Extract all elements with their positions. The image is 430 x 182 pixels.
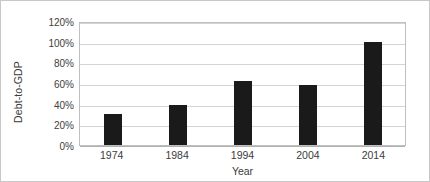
bar-chart: Debt-to-GDP 0%20%40%60%80%100%120% 19741… bbox=[0, 0, 430, 182]
y-axis-tick-20: 20% bbox=[54, 120, 74, 131]
x-axis-tick-1984: 1984 bbox=[144, 149, 209, 164]
y-axis-title: Debt-to-GDP bbox=[7, 1, 29, 182]
x-axis-tick-2014: 2014 bbox=[341, 149, 406, 164]
bar-slot-2004 bbox=[275, 23, 340, 145]
x-axis-tick-2004: 2004 bbox=[275, 149, 340, 164]
plot-area bbox=[79, 22, 406, 146]
y-axis-tick-100: 100% bbox=[48, 37, 74, 48]
bar-2004 bbox=[299, 85, 317, 145]
y-axis-tick-0: 0% bbox=[60, 141, 74, 152]
gridline-0 bbox=[80, 146, 405, 147]
x-axis-tick-1974: 1974 bbox=[79, 149, 144, 164]
y-axis-tick-40: 40% bbox=[54, 99, 74, 110]
bar-slot-1994 bbox=[210, 23, 275, 145]
bar-slot-1974 bbox=[80, 23, 145, 145]
y-axis-tick-120: 120% bbox=[48, 17, 74, 28]
bar-2014 bbox=[364, 42, 382, 145]
bar-1994 bbox=[234, 81, 252, 145]
x-axis-tick-1994: 1994 bbox=[210, 149, 275, 164]
bar-slot-2014 bbox=[340, 23, 405, 145]
y-axis-tick-60: 60% bbox=[54, 79, 74, 90]
bar-slot-1984 bbox=[145, 23, 210, 145]
y-axis-title-label: Debt-to-GDP bbox=[12, 61, 24, 123]
bar-1974 bbox=[104, 114, 122, 145]
y-axis-tick-labels: 0%20%40%60%80%100%120% bbox=[29, 22, 77, 146]
y-axis-tick-80: 80% bbox=[54, 58, 74, 69]
x-axis-title: Year bbox=[79, 165, 406, 177]
bars-layer bbox=[80, 23, 405, 145]
bar-1984 bbox=[169, 105, 187, 145]
x-axis-tick-labels: 19741984199420042014 bbox=[79, 149, 406, 164]
